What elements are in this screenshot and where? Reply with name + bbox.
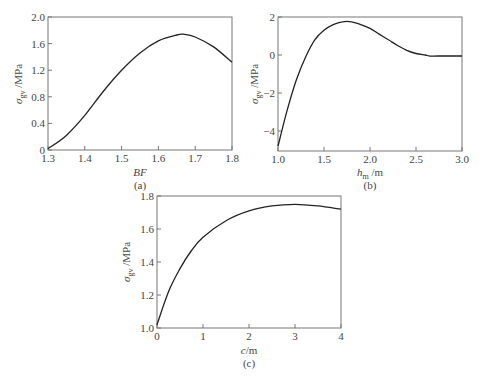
- x-tick-label: 2.0: [363, 153, 377, 165]
- chart-a-ylabel-unit: /MPa: [12, 64, 24, 91]
- y-tick-label: 1.0: [140, 322, 154, 334]
- y-tick-label: 1.2: [31, 64, 45, 76]
- x-tick-label: 4: [338, 330, 344, 342]
- x-tick-label: 3.0: [455, 153, 469, 165]
- chart-c-xticks: 01234: [154, 324, 344, 342]
- chart-b-curve: [278, 21, 462, 146]
- y-tick-label: 1.8: [140, 190, 154, 202]
- y-tick-label: 0: [270, 49, 276, 61]
- y-tick-label: 2: [270, 11, 276, 23]
- x-tick-label: 1.7: [188, 152, 202, 164]
- x-tick-label: 1.5: [317, 153, 331, 165]
- chart-a-ylabel: σgv /MPa: [12, 64, 27, 104]
- chart-c-yticks: 1.01.21.41.61.8: [140, 190, 161, 334]
- x-tick-label: 0: [154, 330, 160, 342]
- x-tick-label: 1.8: [225, 152, 239, 164]
- y-tick-label: 0.8: [31, 91, 45, 103]
- y-tick-label: 1.2: [140, 289, 154, 301]
- x-tick-label: 1.5: [115, 152, 129, 164]
- chart-b-xticks: 1.01.52.02.53.0: [271, 147, 469, 165]
- y-tick-label: 0.4: [31, 117, 45, 129]
- chart-a-yticks: 00.40.81.21.62.0: [31, 11, 52, 156]
- chart-b-caption: (b): [364, 179, 377, 192]
- chart-b-frame: [278, 17, 462, 151]
- x-tick-label: 1: [200, 330, 206, 342]
- y-tick-label: 1.6: [140, 223, 154, 235]
- chart-a-ylabel-sub: gv: [18, 91, 27, 99]
- chart-c-xlabel: c/m: [241, 344, 258, 356]
- chart-b-ylabel: σgv /MPa: [248, 64, 263, 104]
- y-tick-label: 0: [40, 144, 46, 156]
- y-tick-label: 1.6: [31, 38, 45, 50]
- x-tick-label: 2.5: [409, 153, 423, 165]
- x-tick-label: 1.4: [78, 152, 92, 164]
- chart-c-ylabel: σgv /MPa: [120, 242, 135, 282]
- chart-a-curve: [48, 34, 232, 149]
- chart-a-xlabel: BF: [133, 166, 147, 178]
- chart-a-xticks: 1.31.41.51.61.71.8: [41, 146, 239, 164]
- x-tick-label: 1.0: [271, 153, 285, 165]
- y-tick-label: −2: [263, 87, 275, 99]
- x-tick-label: 2: [246, 330, 252, 342]
- chart-c-caption: (c): [243, 357, 256, 370]
- chart-a: 1.31.41.51.61.71.8 00.40.81.21.62.0 BF (…: [12, 11, 239, 192]
- chart-b-yticks: −4−202: [263, 11, 282, 137]
- chart-c: 01234 1.01.21.41.61.8 c/m (c) σgv /MPa: [120, 190, 344, 370]
- chart-a-frame: [48, 17, 232, 150]
- chart-b: 1.01.52.02.53.0 −4−202 hm /m (b) σgv /MP…: [248, 11, 469, 192]
- figure: 1.31.41.51.61.71.8 00.40.81.21.62.0 BF (…: [0, 0, 481, 379]
- y-tick-label: −4: [263, 125, 275, 137]
- x-tick-label: 3: [292, 330, 298, 342]
- y-tick-label: 2.0: [31, 11, 45, 23]
- chart-c-frame: [157, 196, 341, 328]
- y-tick-label: 1.4: [140, 256, 154, 268]
- chart-c-curve: [157, 204, 341, 324]
- x-tick-label: 1.6: [152, 152, 166, 164]
